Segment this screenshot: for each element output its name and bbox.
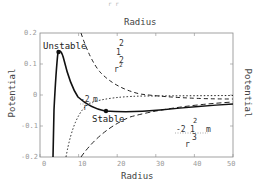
y-tick-label: 0 bbox=[33, 91, 37, 99]
relativistic-m: m bbox=[206, 125, 211, 134]
newton-r: r bbox=[83, 103, 88, 112]
right-y-axis-label: Potential bbox=[243, 63, 253, 123]
y-tick-label: 0.2 bbox=[24, 29, 37, 37]
bottom-x-axis-label: Radius bbox=[121, 171, 154, 181]
x-tick-label: 30 bbox=[156, 160, 164, 168]
relativistic-lsup: 2 bbox=[193, 117, 197, 125]
y-ticks bbox=[40, 64, 233, 126]
x-tick-label: 40 bbox=[193, 160, 201, 168]
relativistic-den: 3 bbox=[192, 133, 197, 142]
y-tick-label: -0.1 bbox=[21, 122, 38, 130]
plot-frame bbox=[40, 33, 233, 157]
y-tick-label: -0.2 bbox=[21, 153, 38, 161]
x-tick-label: 10 bbox=[78, 160, 86, 168]
stable-point bbox=[104, 109, 108, 113]
centrifugal-rsup: 2 bbox=[119, 61, 123, 68]
centrifugal-sup: 2 bbox=[119, 39, 124, 48]
centrifugal-curve bbox=[81, 33, 233, 99]
relativistic-r: r bbox=[185, 140, 190, 149]
y-tick-label: 0.1 bbox=[24, 60, 37, 68]
x-ticks bbox=[40, 33, 233, 157]
newton-m: m bbox=[93, 95, 98, 104]
x-tick-label: 20 bbox=[117, 160, 125, 168]
stable-label: Stable bbox=[92, 114, 125, 124]
x-tick-label: 0 bbox=[42, 160, 46, 168]
unstable-label: Unstable bbox=[43, 41, 86, 51]
relativistic-num: -2 bbox=[176, 125, 186, 134]
chart-canvas bbox=[0, 0, 260, 190]
x-tick-label: 50 bbox=[227, 160, 235, 168]
left-y-axis-label: Potential bbox=[7, 63, 17, 123]
